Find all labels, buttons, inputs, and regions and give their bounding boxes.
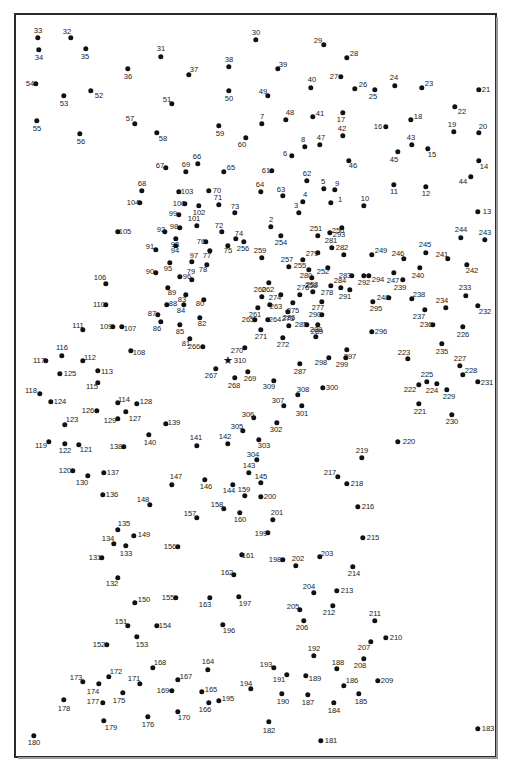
dot-number-label: 95 <box>164 265 172 273</box>
dot-number-label: 196 <box>223 627 236 635</box>
dot-number-label: 41 <box>316 110 324 118</box>
dot-number-label: 174 <box>87 688 100 696</box>
dot-number-label: 173 <box>70 674 83 682</box>
dot-number-label: 212 <box>323 609 336 617</box>
dot-number-label: 172 <box>110 668 123 676</box>
dot-number-label: 66 <box>193 153 201 161</box>
dot-number-label: 184 <box>328 707 341 715</box>
dot-number-label: 185 <box>355 698 368 706</box>
dot-number-label: 166 <box>199 706 212 714</box>
dot-number-label: 111 <box>72 322 84 330</box>
dot-number-label: 200 <box>264 493 277 501</box>
dot-number-label: 51 <box>163 96 171 104</box>
dots-canvas: 1234567891011121314151617181920212223242… <box>0 0 513 781</box>
dot-number-label: 226 <box>457 331 470 339</box>
puzzle-dot <box>311 653 316 658</box>
puzzle-dot <box>315 233 320 238</box>
dot-number-label: 290 <box>309 311 322 319</box>
puzzle-dot <box>146 432 151 437</box>
dot-number-label: 86 <box>153 325 161 333</box>
puzzle-dot <box>183 169 188 174</box>
dot-number-label: 300 <box>326 384 339 392</box>
dot-number-label: 64 <box>256 181 264 189</box>
dot-number-label: 157 <box>184 510 197 518</box>
dot-number-label: 130 <box>76 479 89 487</box>
puzzle-dot <box>131 533 136 538</box>
dot-number-label: 252 <box>317 268 330 276</box>
dot-number-label: 191 <box>273 676 286 684</box>
dot-number-label: 153 <box>136 641 149 649</box>
dot-number-label: 3 <box>294 202 298 210</box>
dot-number-label: 122 <box>59 447 72 455</box>
dot-number-label: 17 <box>337 116 345 124</box>
dot-number-label: 121 <box>80 446 93 454</box>
dot-number-label: 42 <box>338 125 346 133</box>
puzzle-dot <box>458 235 463 240</box>
dot-number-label: 168 <box>154 659 167 667</box>
dot-number-label: 77 <box>203 252 211 260</box>
dot-number-label: 183 <box>482 725 495 733</box>
dot-number-label: 306 <box>242 411 255 419</box>
dot-number-label: 202 <box>292 555 305 563</box>
dot-number-label: 276 <box>297 284 310 292</box>
dot-number-label: 255 <box>294 262 307 270</box>
dot-number-label: 210 <box>390 634 403 642</box>
dot-number-label: 32 <box>63 28 71 36</box>
dot-number-label: 89 <box>168 289 176 297</box>
puzzle-dot <box>359 455 364 460</box>
puzzle-dot <box>94 408 99 413</box>
puzzle-dot <box>35 35 40 40</box>
dot-number-label: 75 <box>224 247 232 255</box>
puzzle-dot <box>169 482 174 487</box>
dot-number-label: 298 <box>315 359 328 367</box>
dot-number-label: 40 <box>308 76 316 84</box>
dot-number-label: 45 <box>390 156 398 164</box>
puzzle-dot <box>279 691 284 696</box>
puzzle-dot <box>123 543 128 548</box>
dot-number-label: 80 <box>196 300 204 308</box>
puzzle-dot <box>268 224 273 229</box>
dot-number-label: 33 <box>34 27 42 35</box>
puzzle-dot <box>416 401 421 406</box>
dot-number-label: 31 <box>157 45 165 53</box>
dot-number-label: 136 <box>106 491 119 499</box>
dot-number-label: 176 <box>142 721 155 729</box>
dot-number-label: 156 <box>164 543 177 551</box>
puzzle-dot <box>331 700 336 705</box>
dot-number-label: 303 <box>258 442 271 450</box>
dot-number-label: 282 <box>336 244 349 252</box>
dot-number-label: 213 <box>341 587 354 595</box>
dot-number-label: 109 <box>100 323 113 331</box>
dot-number-label: 142 <box>219 433 232 441</box>
dot-number-label: 204 <box>303 583 316 591</box>
dot-number-label: 285 <box>295 321 308 329</box>
puzzle-dot <box>253 37 258 42</box>
dot-number-label: 287 <box>294 368 307 376</box>
dot-number-label: 124 <box>54 398 67 406</box>
dot-number-label: 134 <box>102 535 115 543</box>
dot-number-label: 98 <box>170 223 178 231</box>
puzzle-dot <box>340 133 345 138</box>
dot-number-label: 227 <box>454 355 467 363</box>
dot-number-label: 201 <box>271 509 284 517</box>
dot-number-label: 267 <box>205 372 218 380</box>
puzzle-dot <box>290 300 295 305</box>
dot-number-label: 263 <box>270 303 283 311</box>
dot-number-label: 38 <box>225 56 233 64</box>
dot-number-label: 48 <box>286 109 294 117</box>
puzzle-dot <box>300 199 305 204</box>
puzzle-dot <box>88 88 93 93</box>
dot-number-label: 73 <box>231 203 239 211</box>
dot-number-label: 59 <box>216 130 224 138</box>
puzzle-dot <box>416 382 421 387</box>
dot-number-label: 1 <box>338 196 342 204</box>
dot-number-label: 60 <box>238 141 246 149</box>
dot-number-label: 179 <box>105 724 118 732</box>
dot-number-label: 123 <box>66 416 79 424</box>
dot-number-label: 249 <box>375 247 388 255</box>
puzzle-dot <box>226 88 231 93</box>
dot-number-label: 154 <box>159 622 172 630</box>
puzzle-dot <box>95 368 100 373</box>
dot-number-label: 159 <box>238 486 251 494</box>
dot-number-label: 274 <box>269 294 282 302</box>
